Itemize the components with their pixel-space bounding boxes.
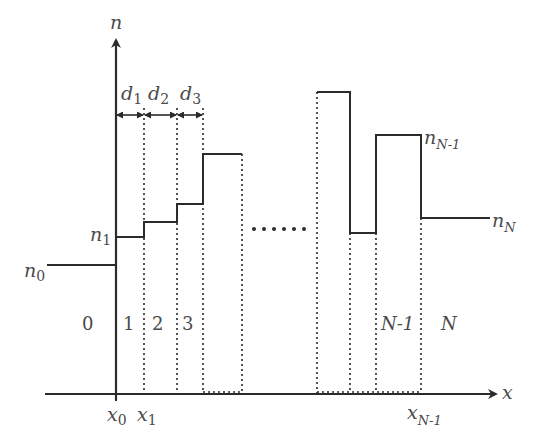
region-0-label: 0 <box>82 313 93 334</box>
xN-1-label: xN-1 <box>407 401 442 428</box>
region-2-label: 2 <box>152 313 163 334</box>
diagram-canvas: n x d1 d2 d3 n0 n1 nN-1 nN <box>0 0 546 447</box>
nN-label: nN <box>492 209 516 235</box>
x1-label: x1 <box>137 403 157 428</box>
region-N-label: N <box>440 313 458 334</box>
x0-label: x0 <box>107 403 127 428</box>
layer-boundaries <box>144 92 421 394</box>
x-axis-label: x <box>502 381 513 403</box>
ellipsis-dots <box>252 227 306 231</box>
d1-label: d1 <box>121 82 142 107</box>
labels: n x d1 d2 d3 n0 n1 nN-1 nN <box>24 11 516 428</box>
region-3-label: 3 <box>182 313 193 334</box>
axes <box>45 40 496 401</box>
y-axis-label: n <box>110 11 122 33</box>
n1-label: n1 <box>90 223 111 248</box>
index-profile-right <box>317 92 490 233</box>
step-index-profile-diagram: n x d1 d2 d3 n0 n1 nN-1 nN <box>0 0 546 447</box>
d2-label: d2 <box>148 82 169 107</box>
region-1-label: 1 <box>123 313 134 334</box>
d3-label: d3 <box>180 82 201 107</box>
region-N-1-label: N-1 <box>380 313 414 334</box>
n0-label: n0 <box>24 259 45 284</box>
nN-1-label: nN-1 <box>424 126 460 152</box>
